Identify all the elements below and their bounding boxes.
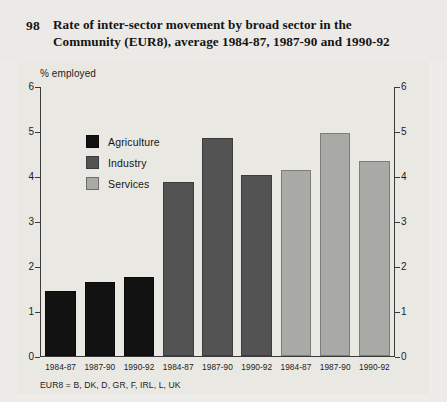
y-tick-right-0 [395,357,400,358]
y-tick-label-left-0: 0 [22,352,34,362]
figure-number: 98 [26,18,40,34]
chart-panel: % employed 0123456 0123456 AgricultureIn… [18,62,429,394]
y-tick-right-2 [395,267,400,268]
y-axis-title: % employed [40,68,96,79]
y-tick-left-2 [35,267,40,268]
legend-item-industry[interactable]: Industry [86,152,160,173]
x-axis-labels: 1984-871987-901990-921984-871987-901990-… [41,362,396,376]
legend-item-label: Services [108,178,149,190]
y-tick-left-4 [35,177,40,178]
figure-title-line-2: Community (EUR8), average 1984-87, 1987-… [53,33,428,50]
y-tick-right-5 [395,132,400,133]
y-tick-left-1 [35,312,40,313]
y-tick-label-right-2: 2 [401,262,413,272]
legend-swatch-agriculture-icon [86,135,99,148]
y-tick-label-left-6: 6 [22,82,34,92]
y-tick-label-right-5: 5 [401,127,413,137]
legend-item-services[interactable]: Services [86,173,160,194]
figure-title-line-1: Rate of inter-sector movement by broad s… [53,17,352,32]
y-tick-left-3 [35,222,40,223]
bar-industry-1984-87 [163,182,194,356]
figure-header: 98 Rate of inter-sector movement by broa… [0,0,447,62]
y-tick-right-3 [395,222,400,223]
y-tick-label-left-5: 5 [22,127,34,137]
y-tick-label-right-0: 0 [401,352,413,362]
bar-services-1990-92 [359,161,390,356]
y-tick-right-6 [395,87,400,88]
legend-swatch-services-icon [86,177,99,190]
bar-agriculture-1990-92 [124,277,155,356]
bar-industry-1987-90 [202,138,233,356]
y-tick-right-1 [395,312,400,313]
x-tick-label-services-1990-92: 1990-92 [351,362,398,372]
plot-area: 0123456 0123456 AgricultureIndustryServi… [40,87,395,357]
y-tick-label-left-1: 1 [22,307,34,317]
y-tick-left-6 [35,87,40,88]
figure-title: Rate of inter-sector movement by broad s… [53,16,428,50]
legend-swatch-industry-icon [86,156,99,169]
legend-item-label: Agriculture [108,136,160,148]
y-tick-label-right-4: 4 [401,172,413,182]
y-tick-left-0 [35,357,40,358]
bar-agriculture-1984-87 [45,291,76,356]
legend-item-label: Industry [108,157,147,169]
y-tick-left-5 [35,132,40,133]
y-tick-label-right-1: 1 [401,307,413,317]
chart-footnote: EUR8 = B, DK, D, GR, F, IRL, L, UK [40,380,181,390]
y-tick-label-right-6: 6 [401,82,413,92]
bar-agriculture-1987-90 [85,282,116,356]
figure-page: 98 Rate of inter-sector movement by broa… [0,0,447,402]
bar-services-1984-87 [281,170,312,356]
bar-services-1987-90 [320,133,351,356]
y-tick-label-left-4: 4 [22,172,34,182]
y-tick-label-left-3: 3 [22,217,34,227]
bar-series-container [41,87,394,356]
chart-legend: AgricultureIndustryServices [86,131,160,194]
x-axis-baseline [40,356,395,357]
legend-item-agriculture[interactable]: Agriculture [86,131,160,152]
y-tick-label-right-3: 3 [401,217,413,227]
y-tick-right-4 [395,177,400,178]
bar-industry-1990-92 [241,175,272,356]
y-tick-label-left-2: 2 [22,262,34,272]
